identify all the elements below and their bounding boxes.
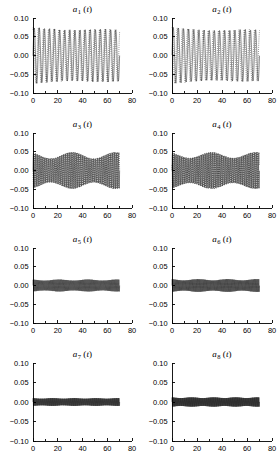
x-tick-label: 20: [54, 96, 62, 105]
x-axis-ticks: 020406080: [31, 320, 136, 335]
x-tick-label: 80: [128, 326, 136, 335]
x-axis-ticks: 020406080: [170, 90, 276, 105]
waveform-group: [33, 27, 120, 83]
y-tick-label: −0.05: [149, 300, 168, 309]
x-tick-label: 80: [268, 444, 276, 453]
x-tick-label: 60: [243, 96, 251, 105]
x-tick-label: 60: [103, 211, 111, 220]
y-axis-ticks: −0.10−0.050.000.050.10: [149, 14, 175, 98]
y-tick-label: −0.10: [10, 204, 29, 213]
y-tick-label: −0.05: [149, 417, 168, 426]
x-tick-label: 60: [243, 326, 251, 335]
x-tick-label: 20: [54, 326, 62, 335]
panel-a6: −0.10−0.050.000.050.10020406080 a6(t): [139, 230, 279, 345]
x-tick-label: 0: [170, 96, 174, 105]
x-tick-label: 20: [54, 444, 62, 453]
x-tick-label: 0: [31, 326, 35, 335]
y-tick-label: −0.10: [149, 89, 168, 98]
y-tick-label: −0.10: [149, 437, 168, 446]
y-tick-label: 0.05: [14, 378, 28, 387]
x-tick-label: 80: [128, 211, 136, 220]
x-tick-label: 80: [128, 96, 136, 105]
x-tick-label: 20: [193, 326, 201, 335]
x-tick-label: 0: [31, 444, 35, 453]
y-tick-label: 0.00: [14, 281, 28, 290]
x-tick-label: 0: [31, 96, 35, 105]
y-tick-label: 0.05: [153, 32, 167, 41]
x-axis-ticks: 020406080: [170, 205, 276, 220]
x-tick-label: 0: [170, 211, 174, 220]
y-axis-ticks: −0.10−0.050.000.050.10: [149, 129, 175, 213]
x-tick-label: 40: [218, 444, 226, 453]
y-tick-label: 0.10: [153, 129, 167, 138]
waveform-group: [33, 279, 120, 291]
y-tick-label: −0.05: [10, 300, 29, 309]
x-tick-label: 60: [103, 96, 111, 105]
y-tick-label: 0.05: [14, 32, 28, 41]
waveform-group: [33, 152, 120, 188]
y-tick-label: 0.00: [14, 51, 28, 60]
x-tick-label: 40: [78, 326, 86, 335]
plot-canvas: −0.10−0.050.000.050.10020406080: [139, 230, 279, 345]
plot-canvas: −0.10−0.050.000.050.10020406080: [139, 0, 279, 115]
plot-canvas: −0.10−0.050.000.050.10020406080: [139, 115, 279, 230]
y-tick-label: 0.05: [153, 378, 167, 387]
plot-canvas: −0.10−0.050.000.050.10020406080: [0, 230, 139, 345]
y-tick-label: 0.00: [14, 166, 28, 175]
x-axis-ticks: 020406080: [31, 205, 136, 220]
x-tick-label: 0: [31, 211, 35, 220]
y-tick-label: −0.10: [149, 319, 168, 328]
y-tick-label: 0.00: [153, 166, 167, 175]
panel-a8: −0.10−0.050.000.050.10020406080 a8(t): [139, 345, 279, 471]
y-tick-label: −0.10: [149, 204, 168, 213]
y-axis-ticks: −0.10−0.050.000.050.10: [149, 244, 175, 328]
x-axis-ticks: 020406080: [170, 320, 276, 335]
x-tick-label: 80: [268, 96, 276, 105]
panel-a4: −0.10−0.050.000.050.10020406080 a4(t): [139, 115, 279, 230]
y-tick-label: 0.10: [14, 129, 28, 138]
y-tick-label: 0.00: [14, 398, 28, 407]
figure-multipanel-timeseries: −0.10−0.050.000.050.10020406080 a1(t) −0…: [0, 0, 279, 471]
panel-a5: −0.10−0.050.000.050.10020406080 a5(t): [0, 230, 139, 345]
y-tick-label: 0.05: [14, 147, 28, 156]
panel-a3: −0.10−0.050.000.050.10020406080 a3(t): [0, 115, 139, 230]
plot-canvas: −0.10−0.050.000.050.10020406080: [0, 0, 139, 115]
x-tick-label: 60: [103, 444, 111, 453]
x-axis-ticks: 020406080: [31, 90, 136, 105]
x-tick-label: 40: [218, 326, 226, 335]
waveform-solid: [172, 397, 260, 406]
waveform-group: [172, 152, 260, 188]
panel-a1: −0.10−0.050.000.050.10020406080 a1(t): [0, 0, 139, 115]
y-tick-label: 0.10: [14, 14, 28, 23]
y-tick-label: −0.05: [10, 417, 29, 426]
x-tick-label: 20: [193, 96, 201, 105]
y-tick-label: −0.05: [10, 185, 29, 194]
x-tick-label: 40: [218, 96, 226, 105]
y-tick-label: −0.10: [10, 89, 29, 98]
x-tick-label: 40: [218, 211, 226, 220]
x-tick-label: 20: [54, 211, 62, 220]
waveform-solid: [33, 28, 120, 84]
x-tick-label: 40: [78, 211, 86, 220]
waveform-group: [33, 398, 120, 406]
plot-canvas: −0.10−0.050.000.050.10020406080: [139, 345, 279, 471]
plot-canvas: −0.10−0.050.000.050.10020406080: [0, 345, 139, 471]
y-tick-label: −0.10: [10, 437, 29, 446]
y-tick-label: 0.05: [14, 262, 28, 271]
x-axis-ticks: 020406080: [31, 438, 136, 453]
x-tick-label: 60: [103, 326, 111, 335]
y-tick-label: 0.05: [153, 262, 167, 271]
waveform-group: [172, 27, 260, 83]
x-axis-ticks: 020406080: [170, 438, 276, 453]
panel-a7: −0.10−0.050.000.050.10020406080 a7(t): [0, 345, 139, 471]
y-axis-ticks: −0.10−0.050.000.050.10: [10, 244, 36, 328]
y-axis-ticks: −0.10−0.050.000.050.10: [10, 14, 36, 98]
x-tick-label: 60: [243, 211, 251, 220]
y-tick-label: −0.10: [10, 319, 29, 328]
x-tick-label: 40: [78, 444, 86, 453]
x-tick-label: 40: [78, 96, 86, 105]
y-tick-label: 0.10: [153, 244, 167, 253]
y-axis-ticks: −0.10−0.050.000.050.10: [10, 129, 36, 213]
x-tick-label: 20: [193, 211, 201, 220]
envelope-lower: [33, 182, 120, 188]
